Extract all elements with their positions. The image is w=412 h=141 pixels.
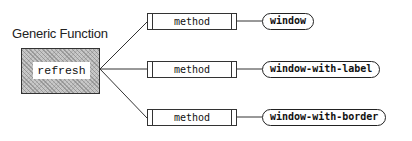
class-node-window-with-label: window-with-label <box>262 61 380 78</box>
diagram-canvas: Generic Function refresh method method m… <box>0 0 412 141</box>
edge-gf-method-3 <box>100 69 147 118</box>
generic-function-node: refresh <box>21 48 100 94</box>
class-node-window: window <box>262 13 314 30</box>
generic-function-name: refresh <box>33 62 90 79</box>
method-node-3: method <box>147 109 237 126</box>
class-node-window-with-border: window-with-border <box>262 109 386 126</box>
method-node-2: method <box>147 61 237 78</box>
method-node-1: method <box>147 13 237 30</box>
generic-function-heading: Generic Function <box>12 26 108 41</box>
